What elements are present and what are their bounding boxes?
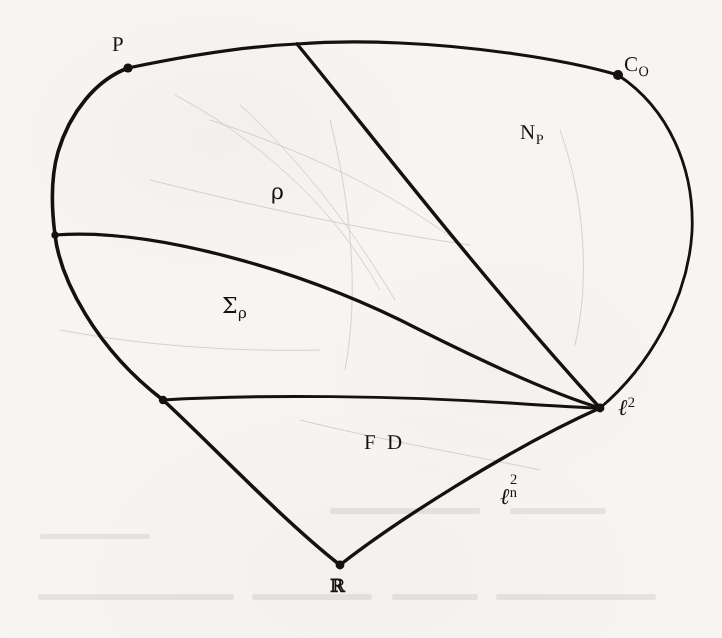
ink-strokes bbox=[52, 42, 692, 565]
ghost-text-layer bbox=[38, 508, 656, 600]
label-P: P bbox=[112, 34, 124, 55]
outer-boundary-lower-left bbox=[163, 400, 340, 565]
label-rho: ρ bbox=[271, 182, 284, 204]
interior-arc-rho-sigma bbox=[55, 234, 600, 408]
vertex-dot-R bbox=[336, 561, 345, 570]
label-ell-n-scripts: 2n bbox=[509, 482, 525, 504]
outer-boundary-top bbox=[297, 42, 618, 75]
interior-arc-sigma-fd bbox=[163, 396, 600, 408]
label-Sigma-subscript: ρ bbox=[238, 304, 247, 322]
label-ell-superscript: 2 bbox=[627, 395, 635, 411]
label-ell-n-base: ℓ bbox=[500, 484, 509, 510]
label-ell-squared: ℓ2 bbox=[618, 396, 635, 419]
outer-boundary-right-lobe bbox=[600, 75, 692, 408]
vertex-dot-l2 bbox=[596, 404, 605, 413]
label-ell-n-squared: ℓ2n bbox=[500, 482, 525, 508]
vertex-dot-left-upper bbox=[51, 231, 58, 238]
figure-canvas: P CO NP ρ Σρ F D ℓ2 ℓ2n ℝ bbox=[0, 0, 722, 638]
label-FD: F D bbox=[364, 432, 405, 453]
label-blackboard-R: ℝ bbox=[330, 578, 345, 596]
label-C-sub-O: CO bbox=[624, 54, 649, 79]
label-ell-base: ℓ bbox=[618, 395, 627, 421]
label-N-base: N bbox=[520, 120, 535, 144]
label-C-base: C bbox=[624, 52, 638, 76]
label-Sigma-sub-rho: Σρ bbox=[222, 296, 247, 321]
vertex-dot-left-lower bbox=[159, 396, 167, 404]
label-N-sub-P: NP bbox=[520, 122, 544, 147]
label-Sigma-base: Σ bbox=[222, 294, 238, 319]
vertex-dot-CO bbox=[613, 70, 623, 80]
interior-chord-top-junction-to-l2 bbox=[297, 44, 600, 408]
faint-pencil-marks bbox=[60, 95, 583, 470]
label-C-subscript: O bbox=[638, 64, 649, 80]
label-ell-n-subscript: n bbox=[510, 486, 517, 501]
label-N-subscript: P bbox=[535, 132, 543, 148]
outer-boundary-top-left bbox=[128, 44, 297, 68]
vertex-dot-P bbox=[123, 63, 132, 72]
diagram-svg bbox=[0, 0, 722, 638]
